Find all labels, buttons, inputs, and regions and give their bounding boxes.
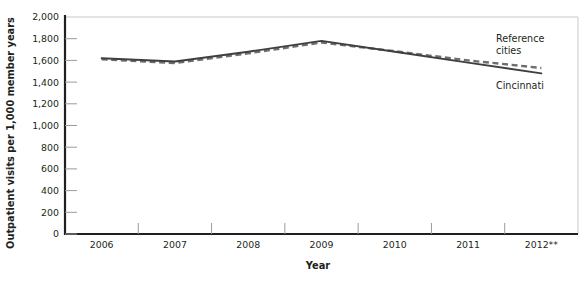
series-label-cincinnati: Cincinnati [496, 80, 544, 91]
y-tick-label-0: 0 [53, 228, 59, 239]
line-chart: 02004006008001,0001,2001,4001,6001,8002,… [0, 0, 584, 281]
y-tick-label-1200: 1,200 [32, 98, 59, 109]
x-tick-label-2011: 2011 [456, 239, 480, 250]
y-tick-label-200: 200 [41, 207, 59, 218]
series-label-reference-cities-line2: cities [496, 45, 521, 56]
y-tick-label-1800: 1,800 [32, 33, 59, 44]
y-tick-label-400: 400 [41, 185, 59, 196]
x-tick-label-2006: 2006 [90, 239, 114, 250]
y-tick-label-600: 600 [41, 163, 59, 174]
series-label-reference-cities-line1: Reference [496, 33, 544, 44]
chart-figure: 02004006008001,0001,2001,4001,6001,8002,… [0, 0, 584, 281]
y-tick-label-800: 800 [41, 142, 59, 153]
x-tick-label-2008: 2008 [236, 239, 260, 250]
y-axis-title: Outpatient visits per 1,000 member years [5, 17, 16, 249]
y-tick-label-1600: 1,600 [32, 55, 59, 66]
x-tick-label-2009: 2009 [310, 239, 334, 250]
y-tick-label-1400: 1,400 [32, 77, 59, 88]
x-tick-label-2007: 2007 [163, 239, 187, 250]
y-tick-label-2000: 2,000 [32, 11, 59, 22]
x-tick-label-2010: 2010 [383, 239, 407, 250]
y-tick-label-1000: 1,000 [32, 120, 59, 131]
x-tick-label-2012**: 2012** [525, 239, 559, 250]
x-axis-title: Year [305, 260, 330, 271]
